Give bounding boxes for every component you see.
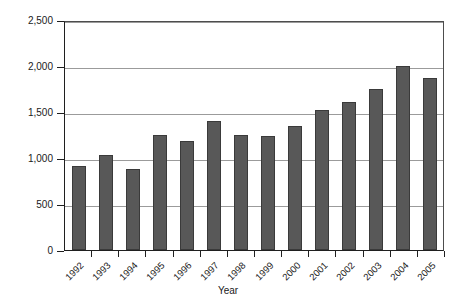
x-axis-tick — [227, 251, 228, 257]
bar-cell — [146, 22, 173, 250]
bar-cell — [308, 22, 335, 250]
bar-cell — [92, 22, 119, 250]
bar[interactable] — [342, 102, 356, 250]
bar[interactable] — [153, 135, 167, 250]
x-axis-tick — [335, 251, 336, 257]
y-axis-tick-label: 500 — [0, 200, 53, 210]
y-axis-tick — [57, 21, 64, 22]
x-axis-tick — [118, 251, 119, 257]
x-axis-tick — [308, 251, 309, 257]
x-axis-tick — [444, 251, 445, 257]
x-axis-title: Year — [0, 285, 456, 296]
bar-cell — [335, 22, 362, 250]
bar[interactable] — [126, 169, 140, 250]
y-axis-tick — [57, 159, 64, 160]
bar[interactable] — [180, 141, 194, 250]
y-axis-tick-label: 0 — [0, 246, 53, 256]
x-axis-tick — [417, 251, 418, 257]
bar[interactable] — [396, 66, 410, 250]
bar-cell — [173, 22, 200, 250]
bar[interactable] — [315, 110, 329, 250]
x-axis-tick — [390, 251, 391, 257]
bar[interactable] — [99, 155, 113, 250]
y-axis-tick — [57, 251, 64, 252]
bar-cell — [416, 22, 443, 250]
y-axis-tick — [57, 113, 64, 114]
x-axis-tick — [173, 251, 174, 257]
bar[interactable] — [72, 166, 86, 250]
plot-area — [64, 21, 444, 251]
bar[interactable] — [207, 121, 221, 250]
bar-cell — [362, 22, 389, 250]
y-axis-tick-label: 1,000 — [0, 154, 53, 164]
bar-cell — [281, 22, 308, 250]
y-axis-tick-label: 2,000 — [0, 62, 53, 72]
bar-cell — [227, 22, 254, 250]
x-axis-tick — [200, 251, 201, 257]
bar-cell — [65, 22, 92, 250]
y-axis-tick-label: 1,500 — [0, 108, 53, 118]
bar-chart-figure: Number of Phase II Awards 05001,0001,500… — [0, 0, 456, 299]
x-axis-tick — [281, 251, 282, 257]
bar-series — [65, 22, 443, 250]
x-axis-tick — [91, 251, 92, 257]
bar[interactable] — [288, 126, 302, 250]
x-axis-tick — [254, 251, 255, 257]
bar[interactable] — [261, 136, 275, 250]
bar[interactable] — [423, 78, 437, 250]
bar[interactable] — [369, 89, 383, 250]
bar-cell — [200, 22, 227, 250]
bar-cell — [389, 22, 416, 250]
bar[interactable] — [234, 135, 248, 250]
bar-cell — [254, 22, 281, 250]
x-axis-tick — [363, 251, 364, 257]
y-axis-tick-label: 2,500 — [0, 16, 53, 26]
bar-cell — [119, 22, 146, 250]
y-axis-tick — [57, 67, 64, 68]
y-axis-tick — [57, 205, 64, 206]
x-axis-tick — [145, 251, 146, 257]
